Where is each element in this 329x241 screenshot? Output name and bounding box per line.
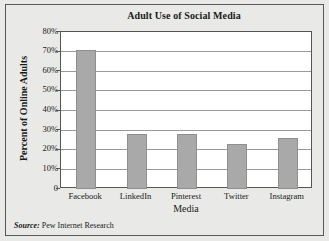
bar-linkedin [127, 134, 147, 189]
y-axis-tick-label: 80% [12, 26, 58, 36]
plot-area [60, 31, 312, 188]
source-label: Source: [14, 221, 40, 230]
gridline [61, 71, 311, 72]
y-axis-tick-label: 40% [12, 104, 58, 114]
bar-facebook [76, 50, 96, 189]
y-axis-tick-label: 10% [12, 163, 58, 173]
bar-pinterest [177, 134, 197, 189]
gridline [61, 110, 311, 111]
chart-title: Adult Use of Social Media [50, 10, 318, 21]
source-note: Source: Pew Internet Research [14, 221, 114, 230]
y-axis-tick-label: 50% [12, 84, 58, 94]
y-axis-tick-label: 20% [12, 143, 58, 153]
y-axis-tick-label: 30% [12, 124, 58, 134]
bar-twitter [227, 144, 247, 189]
gridline [61, 90, 311, 91]
source-value: Pew Internet Research [42, 221, 114, 230]
x-axis-tick-label: Instagram [247, 191, 327, 201]
y-axis-tick-label: 60% [12, 65, 58, 75]
chart-figure: Adult Use of Social Media Percent of Onl… [0, 0, 329, 241]
bar-instagram [278, 138, 298, 189]
y-axis-tick-label: 70% [12, 45, 58, 55]
x-axis-title: Media [60, 203, 312, 214]
gridline [61, 130, 311, 131]
gridline [61, 51, 311, 52]
y-axis-tick-mark [56, 188, 60, 189]
